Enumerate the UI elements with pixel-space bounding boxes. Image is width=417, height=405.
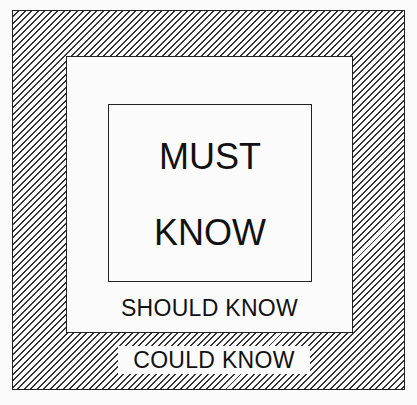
must-know-region (108, 104, 312, 282)
should-know-label: SHOULD KNOW (66, 295, 353, 322)
know-label: KNOW (108, 212, 312, 254)
could-know-label: COULD KNOW (118, 346, 310, 374)
must-label: MUST (108, 136, 312, 178)
